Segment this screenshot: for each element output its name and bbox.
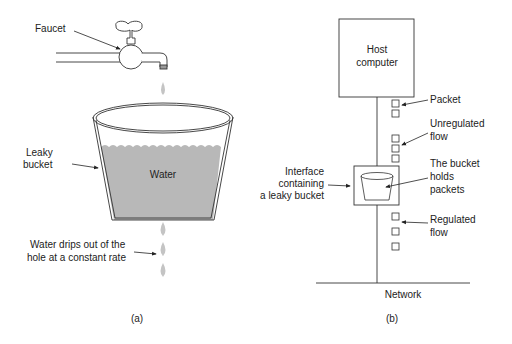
panel-a: Faucet Water Leaky bucket Water drips ou… <box>23 21 233 324</box>
bucket-holds-label-2: holds <box>430 171 454 182</box>
faucet-arrow <box>74 31 120 49</box>
bucket-holds-label-3: packets <box>430 184 464 195</box>
leaky-bucket-diagram: Faucet Water Leaky bucket Water drips ou… <box>0 0 512 344</box>
interface-label-1: Interface <box>285 166 324 177</box>
packet-label: Packet <box>430 94 461 105</box>
drips-arrow <box>134 252 156 254</box>
faucet-label: Faucet <box>35 23 66 34</box>
water-fill <box>101 145 221 220</box>
caption-b: (b) <box>386 313 398 324</box>
panel-b: Host computer Packet Unregulated flow T <box>260 19 484 324</box>
water-drop-icon <box>161 82 165 95</box>
host-label-1: Host <box>367 44 388 55</box>
water-drop-icon <box>161 263 166 277</box>
leaky-bucket-label-1: Leaky <box>26 147 53 158</box>
interface-label-3: a leaky bucket <box>260 190 324 201</box>
leaky-bucket-arrow <box>72 164 98 168</box>
packet-icon <box>392 155 399 162</box>
faucet-icon <box>56 21 167 69</box>
packet-icon <box>392 228 399 235</box>
host-label-2: computer <box>356 57 398 68</box>
network-label: Network <box>385 289 423 300</box>
packet-icon <box>392 135 399 142</box>
packet-icon <box>392 100 399 107</box>
packet-arrow <box>402 100 428 105</box>
bucket-holds-label-1: The bucket <box>430 158 480 169</box>
drips-label-2: hole at a constant rate <box>27 252 126 263</box>
drips-label-1: Water drips out of the <box>30 239 126 250</box>
packet-icon <box>392 243 399 250</box>
packet-icon <box>392 110 399 117</box>
unregulated-arrow <box>402 133 428 145</box>
leaky-bucket-label-2: bucket <box>23 159 53 170</box>
interface-label-2: containing <box>278 178 324 189</box>
packet-icon <box>392 213 399 220</box>
interface-arrow <box>328 185 350 186</box>
water-label: Water <box>150 169 177 180</box>
regulated-label-1: Regulated <box>430 214 476 225</box>
unregulated-label-1: Unregulated <box>430 118 484 129</box>
regulated-label-2: flow <box>430 227 449 238</box>
regulated-arrow <box>402 222 428 223</box>
water-drop-icon <box>161 222 166 236</box>
unregulated-label-2: flow <box>430 131 449 142</box>
caption-a: (a) <box>131 313 143 324</box>
packet-icon <box>392 145 399 152</box>
drips <box>161 222 166 277</box>
water-drop-icon <box>161 242 166 256</box>
